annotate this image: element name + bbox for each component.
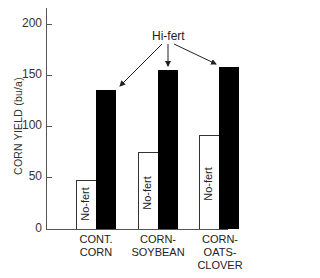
x-category-line: CORN- — [192, 233, 248, 246]
x-category-corn-soybean: CORN- SOYBEAN — [128, 233, 188, 259]
x-category-line: CORN — [68, 246, 124, 259]
x-category-corn-oats-clover: CORN- OATS- CLOVER — [192, 233, 248, 272]
x-category-cont-corn: CONT. CORN — [68, 233, 124, 259]
x-category-line: CLOVER — [192, 259, 248, 272]
x-category-line: CORN- — [128, 233, 188, 246]
x-category-line: CONT. — [68, 233, 124, 246]
x-category-line: SOYBEAN — [128, 246, 188, 259]
x-category-line: OATS- — [192, 246, 248, 259]
